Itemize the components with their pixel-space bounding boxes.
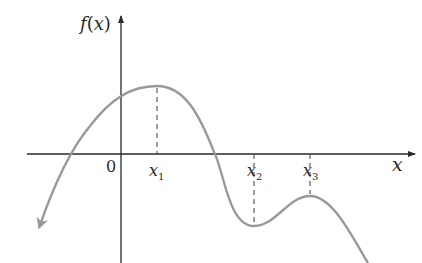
x3-label: x3 [303, 161, 318, 182]
origin-label: 0 [106, 157, 116, 176]
function-curve [39, 86, 368, 263]
function-graph: f(x) x 0 x1 x2 x3 [0, 0, 422, 263]
x2-label: x2 [247, 161, 262, 182]
x-axis-label: x [392, 153, 403, 175]
y-axis-label: f(x) [78, 13, 111, 34]
x1-label: x1 [149, 161, 164, 182]
